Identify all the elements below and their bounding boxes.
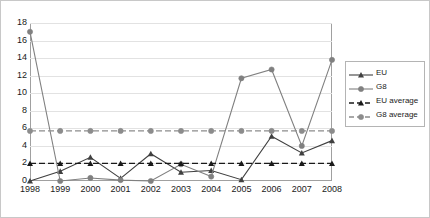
plot-area bbox=[30, 23, 332, 181]
x-axis-tick-label: 2003 bbox=[164, 184, 198, 195]
y-axis-tick-label: 16 bbox=[3, 36, 27, 45]
y-axis-tick-label: 8 bbox=[3, 106, 27, 115]
x-axis-tick-label: 1999 bbox=[43, 184, 77, 195]
legend-item-label: G8 bbox=[374, 82, 387, 92]
series-lines bbox=[30, 23, 332, 181]
legend-item[interactable]: EU average bbox=[348, 94, 421, 108]
circle-marker-icon bbox=[348, 109, 374, 121]
y-axis-tick-label: 18 bbox=[3, 18, 27, 27]
series-g8-average bbox=[27, 128, 334, 133]
y-axis-tick-label: 12 bbox=[3, 71, 27, 80]
x-axis-tick-label: 2007 bbox=[285, 184, 319, 195]
triangle-marker-icon bbox=[348, 67, 374, 79]
line-chart: 024681012141618 199819992000200120022003… bbox=[0, 0, 430, 218]
x-axis-tick-label: 2002 bbox=[134, 184, 168, 195]
circle-marker-icon bbox=[348, 81, 374, 93]
legend-item-label: EU bbox=[374, 68, 387, 78]
x-axis-tick-label: 2004 bbox=[194, 184, 228, 195]
x-axis-tick-label: 2001 bbox=[104, 184, 138, 195]
legend-item[interactable]: G8 bbox=[348, 80, 421, 94]
x-axis-tick-label: 2000 bbox=[73, 184, 107, 195]
legend-item[interactable]: EU bbox=[348, 66, 421, 80]
x-axis-tick-label: 2005 bbox=[224, 184, 258, 195]
y-axis: 024681012141618 bbox=[1, 23, 27, 181]
triangle-marker-icon bbox=[348, 95, 374, 107]
y-axis-tick-label: 4 bbox=[3, 141, 27, 150]
x-axis-tick-label: 2006 bbox=[255, 184, 289, 195]
legend-item-label: EU average bbox=[374, 96, 418, 106]
x-axis-tick-label: 1998 bbox=[13, 184, 47, 195]
x-axis: 1998199920002001200220032004200520062007… bbox=[30, 184, 332, 198]
legend-item[interactable]: G8 average bbox=[348, 108, 421, 122]
legend-item-label: G8 average bbox=[374, 110, 418, 120]
y-axis-tick-label: 10 bbox=[3, 88, 27, 97]
y-axis-tick-label: 6 bbox=[3, 123, 27, 132]
series-g8 bbox=[27, 29, 334, 183]
x-axis-tick-label: 2008 bbox=[315, 184, 349, 195]
y-axis-tick-label: 2 bbox=[3, 158, 27, 167]
y-axis-tick-label: 14 bbox=[3, 53, 27, 62]
chart-legend: EUG8EU averageG8 average bbox=[345, 61, 425, 127]
series-eu bbox=[27, 133, 335, 183]
